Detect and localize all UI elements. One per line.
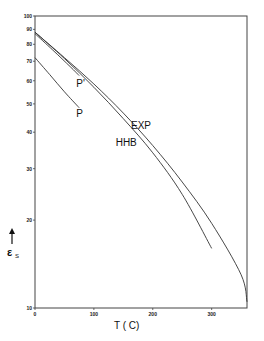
- arrow-head-icon: [9, 228, 15, 234]
- y-tick-label: 40: [26, 129, 32, 135]
- curves: [35, 32, 247, 302]
- x-tick-label: 100: [90, 311, 99, 317]
- y-tick-label: 90: [26, 26, 32, 32]
- x-axis-label: T ( C): [114, 320, 139, 331]
- chart-canvas: 102030405060708090100 0100200300 P'PEXPH…: [0, 0, 264, 341]
- x-tick-label: 200: [149, 311, 158, 317]
- y-tick-label: 100: [24, 13, 33, 19]
- x-tick-label: 300: [207, 311, 216, 317]
- curve-label: HHB: [116, 137, 137, 148]
- y-tick-label: 80: [26, 41, 32, 47]
- y-axis-subscript: S: [15, 253, 19, 259]
- curve-p-prime: [35, 34, 79, 76]
- x-axis-ticks: 0100200300: [34, 308, 216, 317]
- curve-label: P': [76, 78, 85, 89]
- y-tick-label: 30: [26, 166, 32, 172]
- y-axis-ticks: 102030405060708090100: [24, 13, 35, 311]
- y-axis-label: ε S: [7, 228, 19, 259]
- y-tick-label: 20: [26, 217, 32, 223]
- y-tick-label: 60: [26, 78, 32, 84]
- curve-label: EXP: [131, 120, 151, 131]
- y-tick-label: 10: [26, 305, 32, 311]
- curve-exp: [35, 32, 247, 302]
- curve-label: P: [76, 108, 83, 119]
- y-tick-label: 50: [26, 101, 32, 107]
- x-tick-label: 0: [34, 311, 37, 317]
- y-axis-symbol: ε: [7, 246, 13, 258]
- y-tick-label: 70: [26, 58, 32, 64]
